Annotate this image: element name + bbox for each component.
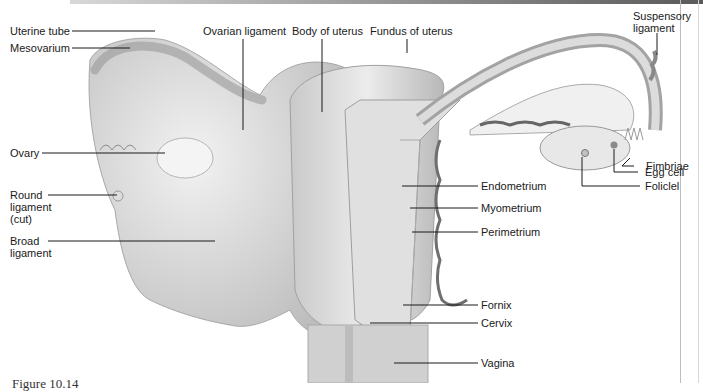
uterus-cut-section [345,100,460,330]
label-uterine-tube: Uterine tube [10,25,70,37]
label-egg-cell: Egg cell [645,166,684,178]
label-ovary: Ovary [10,147,39,159]
label-ovarian-ligament: Ovarian ligament [203,25,286,37]
egg-cell [611,142,618,149]
label-mesovarium: Mesovarium [10,42,70,54]
vagina-shape [308,325,428,383]
label-body-of-uterus: Body of uterus [292,25,363,37]
label-perimetrium: Perimetrium [481,226,540,238]
figure-caption: Figure 10.14 [12,376,78,392]
label-round-ligament: Round ligament (cut) [10,189,52,225]
label-follicle: Foliclel [645,180,679,192]
uterine-vessels [436,140,467,305]
label-myometrium: Myometrium [481,202,542,214]
label-round-ligament-line2: ligament [10,201,52,213]
fimbriae-right [625,128,643,140]
right-ovary [540,126,630,170]
label-fundus-of-uterus: Fundus of uterus [370,25,453,37]
label-suspensory-line1: Suspensory [633,10,691,22]
label-endometrium: Endometrium [481,180,546,192]
label-cervix: Cervix [481,317,512,329]
label-fornix: Fornix [481,299,512,311]
label-round-ligament-line3: (cut) [10,213,52,225]
label-suspensory-line2: ligament [633,22,691,34]
left-ovary [157,138,213,178]
label-broad-ligament-line2: ligament [10,247,52,259]
label-broad-ligament: Broad ligament [10,235,52,259]
label-round-ligament-line1: Round [10,189,52,201]
round-ligament-stub [113,191,123,201]
label-vagina: Vagina [481,357,514,369]
label-suspensory-ligament: Suspensory ligament [633,10,691,34]
label-broad-ligament-line1: Broad [10,235,52,247]
